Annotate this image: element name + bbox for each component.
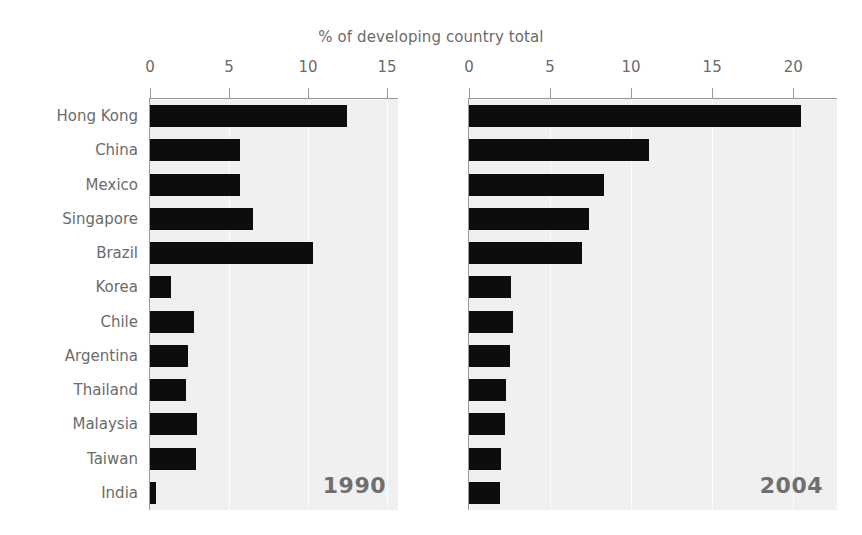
bar-thailand bbox=[150, 379, 186, 401]
category-label-thailand: Thailand bbox=[74, 382, 138, 398]
category-label-taiwan: Taiwan bbox=[87, 451, 138, 467]
category-label-china: China bbox=[95, 142, 138, 158]
bar-thailand bbox=[469, 379, 506, 401]
y-axis-spine bbox=[149, 98, 150, 510]
category-label-brazil: Brazil bbox=[96, 245, 138, 261]
x-tick bbox=[150, 88, 151, 98]
bar-brazil bbox=[150, 242, 313, 264]
x-tick bbox=[550, 88, 551, 98]
bar-mexico bbox=[469, 174, 604, 196]
bar-malaysia bbox=[150, 413, 197, 435]
bar-china bbox=[469, 139, 649, 161]
gridline bbox=[387, 99, 388, 510]
x-tick-label: 15 bbox=[703, 58, 722, 76]
category-axis-labels: Hong KongChinaMexicoSingaporeBrazilKorea… bbox=[10, 99, 144, 510]
y-axis-spine bbox=[468, 98, 469, 510]
bar-mexico bbox=[150, 174, 240, 196]
chart-title: % of developing country total bbox=[0, 28, 862, 46]
bar-argentina bbox=[469, 345, 510, 367]
panel-2004: 2004 05101520 bbox=[469, 99, 837, 510]
bar-hong-kong bbox=[150, 105, 347, 127]
x-tick bbox=[793, 88, 794, 98]
x-tick bbox=[712, 88, 713, 98]
category-label-korea: Korea bbox=[95, 279, 138, 295]
bar-india bbox=[150, 482, 156, 504]
panel-year-label-1990: 1990 bbox=[323, 473, 386, 498]
panel-year-label-2004: 2004 bbox=[760, 473, 823, 498]
bar-singapore bbox=[469, 208, 589, 230]
panel-1990: 1990 051015 bbox=[150, 99, 398, 510]
bar-singapore bbox=[150, 208, 253, 230]
bar-argentina bbox=[150, 345, 188, 367]
x-tick-label: 10 bbox=[298, 58, 317, 76]
x-tick-label: 5 bbox=[224, 58, 234, 76]
x-tick bbox=[308, 88, 309, 98]
x-tick bbox=[229, 88, 230, 98]
category-label-hong-kong: Hong Kong bbox=[56, 108, 138, 124]
category-label-mexico: Mexico bbox=[86, 177, 138, 193]
x-tick-label: 10 bbox=[622, 58, 641, 76]
bar-chile bbox=[469, 311, 513, 333]
x-axis-line bbox=[150, 98, 398, 99]
x-tick bbox=[469, 88, 470, 98]
bar-malaysia bbox=[469, 413, 505, 435]
x-tick-label: 0 bbox=[464, 58, 474, 76]
category-label-chile: Chile bbox=[100, 314, 138, 330]
category-label-singapore: Singapore bbox=[62, 211, 138, 227]
x-tick-label: 15 bbox=[377, 58, 396, 76]
category-label-malaysia: Malaysia bbox=[72, 416, 138, 432]
bar-chile bbox=[150, 311, 194, 333]
bar-india bbox=[469, 482, 500, 504]
x-tick bbox=[631, 88, 632, 98]
x-tick bbox=[387, 88, 388, 98]
bar-taiwan bbox=[150, 448, 196, 470]
category-label-argentina: Argentina bbox=[65, 348, 138, 364]
category-label-india: India bbox=[101, 485, 138, 501]
chart-figure: % of developing country total Hong KongC… bbox=[0, 0, 862, 535]
bar-taiwan bbox=[469, 448, 501, 470]
plot-area-2004 bbox=[469, 99, 837, 510]
x-tick-label: 0 bbox=[145, 58, 155, 76]
x-tick-label: 5 bbox=[545, 58, 555, 76]
bar-korea bbox=[469, 276, 511, 298]
x-tick-label: 20 bbox=[784, 58, 803, 76]
gridline bbox=[712, 99, 713, 510]
bar-korea bbox=[150, 276, 171, 298]
bar-brazil bbox=[469, 242, 582, 264]
gridline bbox=[793, 99, 794, 510]
bar-hong-kong bbox=[469, 105, 801, 127]
gridline bbox=[308, 99, 309, 510]
x-axis-line bbox=[469, 98, 837, 99]
bar-china bbox=[150, 139, 240, 161]
plot-area-1990 bbox=[150, 99, 398, 510]
